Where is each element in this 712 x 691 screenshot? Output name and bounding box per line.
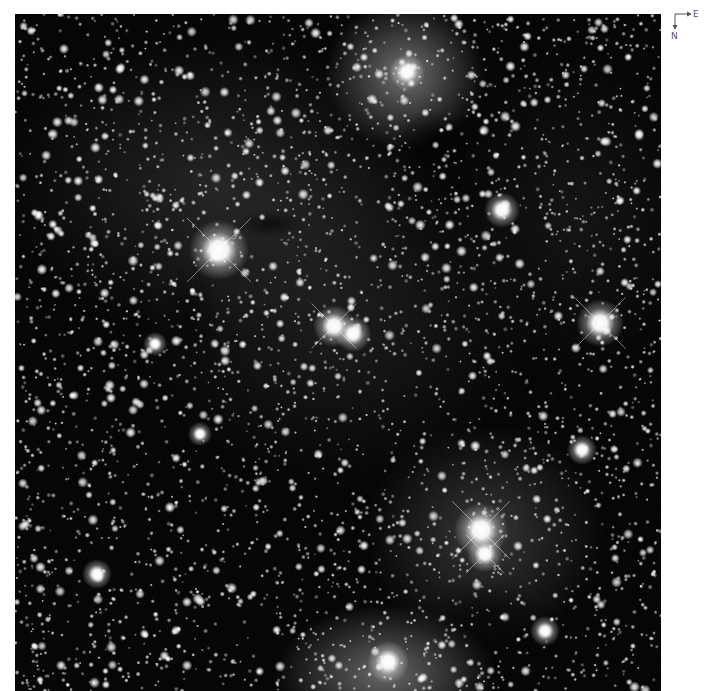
star-field-canvas xyxy=(15,14,661,691)
east-label: E xyxy=(693,9,699,19)
astronomical-image xyxy=(15,14,661,691)
compass-arrows-icon xyxy=(673,12,691,29)
orientation-compass: E N xyxy=(668,4,708,44)
north-label: N xyxy=(671,31,678,41)
